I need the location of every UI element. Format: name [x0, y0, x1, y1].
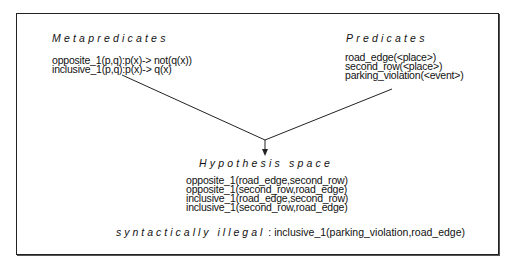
predicates-heading: Predicates — [346, 32, 428, 44]
predicates-connector — [265, 89, 392, 140]
illegal-label: syntactically illegal — [116, 226, 265, 238]
metapredicates-connector — [122, 75, 265, 140]
syntactically-illegal-row: syntactically illegal : inclusive_1(park… — [116, 226, 465, 238]
arrow-down-icon — [262, 149, 268, 156]
hypothesis-space-heading: Hypothesis space — [199, 157, 333, 169]
predicate-item: parking_violation(<event>) — [345, 70, 464, 80]
illegal-separator: : — [265, 226, 274, 238]
metapredicates-heading: Metapredicates — [52, 32, 169, 44]
illegal-example: inclusive_1(parking_violation,road_edge) — [274, 226, 465, 238]
metapredicate-item: inclusive_1(p,q):p(x)-> q(x) — [52, 64, 172, 74]
hypothesis-item: inclusive_1(second_row,road_edge) — [186, 202, 348, 212]
